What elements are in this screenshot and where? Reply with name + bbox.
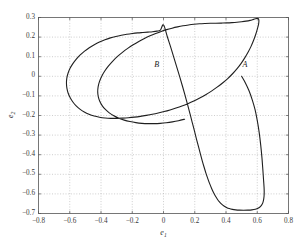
y-tick-label: −0.5 (22, 169, 35, 177)
chart-figure: 0.30.20.10−0.1−0.2−0.3−0.4−0.5−0.6−0.7 −… (0, 0, 307, 244)
y-tick-label: −0.4 (22, 150, 35, 158)
plot-canvas (0, 0, 307, 244)
data-curve (66, 18, 264, 210)
x-tick-label: 0.4 (212, 217, 240, 225)
y-tick-label: 0.1 (26, 52, 35, 60)
y-tick-label: −0.1 (22, 91, 35, 99)
y-tick-label: −0.2 (22, 111, 35, 119)
x-tick-label: 0.2 (181, 217, 209, 225)
y-tick-label: 0 (31, 71, 35, 79)
x-tick-label: −0.8 (25, 217, 53, 225)
x-tick-label: 0.6 (243, 217, 271, 225)
curve-point-label-b: B (154, 60, 159, 69)
x-tick-label: 0 (150, 217, 178, 225)
x-tick-label: −0.4 (87, 217, 115, 225)
y-tick-label: −0.6 (22, 189, 35, 197)
y-tick-label: 0.2 (26, 32, 35, 40)
y-axis-title-subscript: 2 (9, 111, 15, 114)
y-tick-label: 0.3 (26, 13, 35, 21)
curve-point-label-a: A (243, 60, 248, 69)
x-tick-label: −0.6 (56, 217, 84, 225)
x-axis-title: e1 (152, 228, 176, 238)
y-tick-label: −0.3 (22, 130, 35, 138)
y-axis-title: e2 (6, 102, 16, 126)
x-tick-label: 0.8 (275, 217, 303, 225)
x-axis-title-subscript: 1 (164, 231, 167, 237)
y-tick-label: −0.7 (22, 209, 35, 217)
x-tick-label: −0.2 (118, 217, 146, 225)
